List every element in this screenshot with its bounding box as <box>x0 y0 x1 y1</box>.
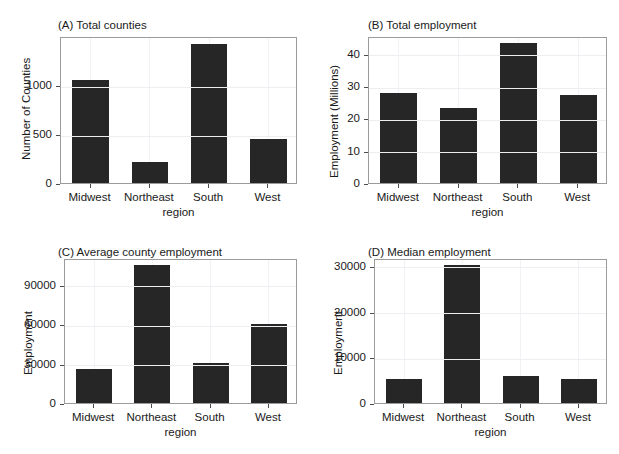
x-tick-label: West <box>239 411 297 423</box>
panel-c-bars <box>65 260 296 403</box>
gridline-horizontal <box>369 55 606 56</box>
y-tick-mark <box>364 184 368 185</box>
y-tick-label: 30000 <box>0 359 56 371</box>
x-tick-label: South <box>488 191 548 203</box>
y-tick-label: 20000 <box>310 307 366 319</box>
panel-d-title: (D) Median employment <box>368 245 491 259</box>
panel-a-plot-area <box>60 37 297 184</box>
x-tick-mark <box>398 184 399 188</box>
y-tick-label: 0 <box>0 398 56 410</box>
y-tick-label: 40 <box>310 49 360 61</box>
x-tick-label: West <box>547 191 607 203</box>
bar <box>561 379 597 403</box>
y-tick-mark <box>364 152 368 153</box>
panel-c-title: (C) Average county employment <box>58 245 222 259</box>
x-tick-mark <box>208 184 209 188</box>
bar <box>386 379 422 403</box>
chart-panel-b: (B) Total employment Employment (Million… <box>310 0 619 227</box>
x-tick-mark <box>517 184 518 188</box>
chart-panel-c: (C) Average county employment Employment… <box>0 227 309 454</box>
y-tick-mark <box>364 119 368 120</box>
panel-a-title: (A) Total counties <box>58 18 147 32</box>
panel-c-plot-area <box>64 259 297 404</box>
y-tick-mark <box>60 325 64 326</box>
panel-a-y-axis-label: Number of Counties <box>20 58 32 160</box>
gridline-horizontal <box>369 152 606 153</box>
y-tick-label: 10000 <box>310 352 366 364</box>
y-tick-label: 10 <box>310 146 360 158</box>
panel-c-x-axis-label: region <box>64 426 297 438</box>
x-tick-label: West <box>549 411 607 423</box>
y-tick-label: 0 <box>0 178 52 190</box>
x-tick-mark <box>93 404 94 408</box>
x-tick-mark <box>267 184 268 188</box>
figure-bar-chart-grid: (A) Total counties Number of Counties re… <box>0 0 619 454</box>
bar <box>191 44 228 183</box>
panel-b-plot-area <box>368 37 607 184</box>
x-tick-label: Midwest <box>368 191 428 203</box>
bar <box>560 95 597 183</box>
gridline-horizontal <box>65 326 296 327</box>
x-tick-label: Northeast <box>432 411 490 423</box>
y-tick-mark <box>60 286 64 287</box>
x-tick-mark <box>578 404 579 408</box>
y-tick-mark <box>370 313 374 314</box>
y-tick-label: 0 <box>310 398 366 410</box>
chart-panel-d: (D) Median employment Employment region … <box>310 227 619 454</box>
y-tick-label: 60000 <box>0 319 56 331</box>
bar <box>444 265 480 403</box>
gridline-horizontal <box>61 87 296 88</box>
y-tick-label: 30000 <box>310 261 366 273</box>
x-tick-mark <box>268 404 269 408</box>
x-tick-mark <box>458 184 459 188</box>
panel-b-x-axis-label: region <box>368 206 607 218</box>
y-tick-mark <box>60 365 64 366</box>
x-tick-label: Northeast <box>122 411 180 423</box>
panel-d-bars <box>375 260 606 403</box>
bar <box>72 80 109 183</box>
x-tick-label: Midwest <box>64 411 122 423</box>
gridline-horizontal <box>61 136 296 137</box>
y-tick-label: 20 <box>310 113 360 125</box>
x-tick-mark <box>520 404 521 408</box>
x-tick-label: Northeast <box>119 191 178 203</box>
y-tick-label: 0 <box>310 178 360 190</box>
panel-d-plot-area <box>374 259 607 404</box>
x-tick-mark <box>403 404 404 408</box>
x-tick-label: Midwest <box>374 411 432 423</box>
x-tick-mark <box>577 184 578 188</box>
x-tick-label: Northeast <box>428 191 488 203</box>
gridline-horizontal <box>65 286 296 287</box>
x-tick-mark <box>149 184 150 188</box>
y-tick-mark <box>364 87 368 88</box>
gridline-horizontal <box>375 267 606 268</box>
x-tick-mark <box>151 404 152 408</box>
bar <box>193 363 229 403</box>
y-tick-label: 90000 <box>0 280 56 292</box>
y-tick-label: 1000 <box>0 80 52 92</box>
gridline-horizontal <box>375 359 606 360</box>
y-tick-mark <box>364 55 368 56</box>
gridline-horizontal <box>369 120 606 121</box>
panel-d-x-axis-label: region <box>374 426 607 438</box>
bar <box>250 139 287 183</box>
y-tick-mark <box>60 404 64 405</box>
x-tick-mark <box>90 184 91 188</box>
x-tick-label: South <box>491 411 549 423</box>
bar <box>251 324 287 403</box>
chart-panel-a: (A) Total counties Number of Counties re… <box>0 0 309 227</box>
x-tick-label: South <box>179 191 238 203</box>
y-tick-mark <box>370 404 374 405</box>
panel-a-x-axis-label: region <box>60 206 297 218</box>
x-tick-label: Midwest <box>60 191 119 203</box>
bar <box>76 369 112 403</box>
bar <box>500 43 537 183</box>
gridline-horizontal <box>65 365 296 366</box>
gridline-horizontal <box>369 88 606 89</box>
y-tick-label: 500 <box>0 129 52 141</box>
x-tick-label: South <box>181 411 239 423</box>
x-tick-mark <box>210 404 211 408</box>
panel-b-bars <box>369 38 606 183</box>
x-tick-mark <box>461 404 462 408</box>
bar <box>503 376 539 403</box>
